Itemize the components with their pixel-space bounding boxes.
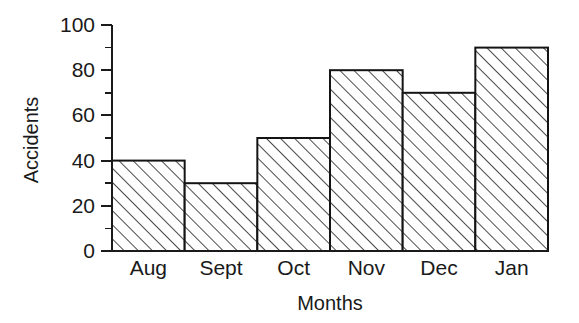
y-tick-label-20: 20: [72, 194, 95, 217]
x-tick-label-sept: Sept: [199, 256, 242, 279]
bar-dec: [403, 93, 476, 251]
y-tick-label-0: 0: [83, 239, 95, 262]
y-tick-label-40: 40: [72, 149, 95, 172]
bar-chart-figure: 020406080100 AugSeptOctNovDecJan Acciden…: [0, 0, 579, 323]
y-tick-label-60: 60: [72, 103, 95, 126]
x-tick-label-dec: Dec: [420, 256, 457, 279]
bar-jan: [475, 48, 548, 251]
bar-nov: [330, 70, 403, 251]
x-tick-label-nov: Nov: [348, 256, 386, 279]
x-tick-label-jan: Jan: [495, 256, 529, 279]
bar-aug: [112, 161, 185, 251]
x-tick-label-oct: Oct: [277, 256, 310, 279]
x-tick-label-aug: Aug: [130, 256, 167, 279]
x-axis-title: Months: [297, 292, 363, 314]
y-tick-label-100: 100: [60, 13, 95, 36]
chart-canvas: 020406080100 AugSeptOctNovDecJan Acciden…: [0, 0, 579, 323]
bar-sept: [185, 183, 258, 251]
y-tick-label-80: 80: [72, 58, 95, 81]
bar-oct: [257, 138, 330, 251]
y-axis-title: Accidents: [20, 97, 42, 184]
